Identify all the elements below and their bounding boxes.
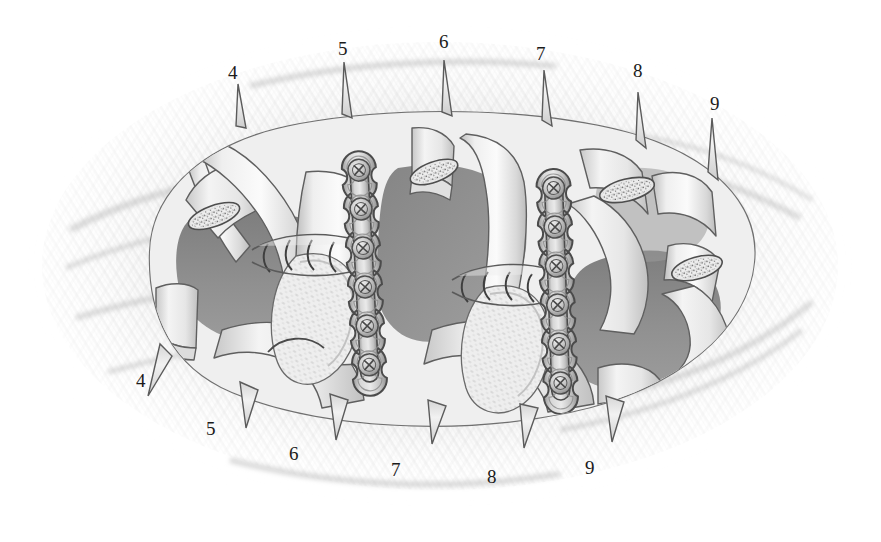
rib-label-bottom-8: 8 (487, 467, 497, 486)
rib-label-bottom-7: 7 (391, 460, 401, 479)
illustration-canvas: 4 5 6 7 8 9 4 5 6 7 8 9 (0, 0, 881, 542)
rib-label-top-5: 5 (338, 39, 348, 58)
rib-label-bottom-4: 4 (136, 371, 146, 390)
rib-label-bottom-9: 9 (585, 458, 595, 477)
rib-label-top-7: 7 (536, 44, 546, 63)
rib-reconstruction-illustration (0, 0, 881, 542)
rib-label-top-6: 6 (439, 32, 449, 51)
rib-label-bottom-6: 6 (289, 444, 299, 463)
rib-label-top-4: 4 (228, 63, 238, 82)
rib-label-bottom-5: 5 (206, 419, 216, 438)
rib-label-top-8: 8 (633, 61, 643, 80)
rib-label-top-9: 9 (710, 94, 720, 113)
